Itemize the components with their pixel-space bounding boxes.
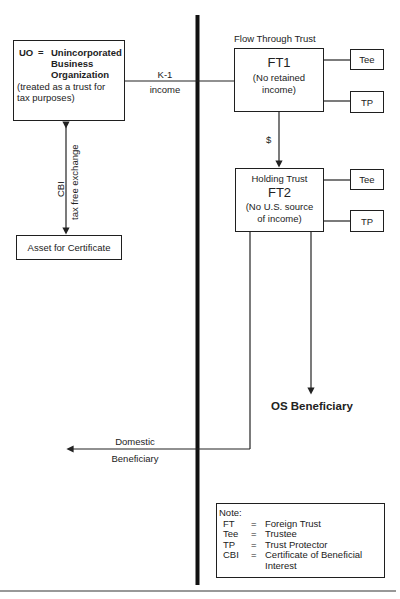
uo-line2: Business: [51, 58, 93, 69]
ft1-sub1: (No retained: [235, 72, 323, 83]
ft2-caption: Holding Trust: [236, 173, 323, 184]
cbi-label: CBI: [55, 181, 66, 197]
k1-label: K-1: [150, 69, 180, 80]
note-legend-box: Note: FT = Foreign Trust Tee = Trustee T…: [216, 503, 385, 578]
ft1-sub2: income): [235, 84, 323, 95]
note-abbr: Tee: [217, 529, 251, 540]
note-eq: =: [251, 550, 265, 571]
ft1-caption: Flow Through Trust: [234, 33, 316, 44]
beneficiary-label: Beneficiary: [100, 453, 170, 464]
uo-line1: Unincorporated: [51, 47, 122, 58]
tax-free-exchange-label: tax free exchange: [69, 144, 80, 220]
k1-income-label: income: [142, 84, 188, 95]
ft1-tee-label: Tee: [351, 54, 383, 65]
ft2-protector-box: TP: [350, 210, 384, 232]
ft1-protector-box: TP: [350, 91, 384, 113]
asset-for-certificate-box: Asset for Certificate: [16, 235, 122, 260]
uo-sub2: tax purposes): [17, 92, 75, 103]
os-beneficiary-label: OS Beneficiary: [271, 400, 353, 413]
ft2-tee-label: Tee: [351, 174, 383, 185]
note-item-tee: Tee = Trustee: [217, 529, 384, 540]
uo-equals: =: [38, 47, 44, 58]
note-item-cbi: CBI = Certificate of Beneficial Interest: [217, 550, 384, 571]
note-title: Note:: [217, 508, 384, 519]
note-eq: =: [251, 529, 265, 540]
note-def: Certificate of Beneficial Interest: [265, 550, 375, 571]
ft1-tp-label: TP: [351, 97, 383, 108]
ft1-box: FT1 (No retained income): [234, 48, 324, 112]
note-def: Trustee: [265, 529, 375, 540]
ft2-sub1: (No U.S. source: [236, 201, 323, 212]
ft2-title: FT2: [236, 186, 323, 200]
ft2-sub2: of income): [236, 213, 323, 224]
uo-abbr: UO: [19, 47, 33, 58]
domestic-label: Domestic: [100, 436, 170, 447]
dollar-label: $: [266, 134, 271, 145]
ft2-trustee-box: Tee: [350, 169, 384, 190]
ft2-tp-label: TP: [351, 216, 383, 227]
asset-label: Asset for Certificate: [17, 242, 121, 253]
note-abbr: CBI: [217, 550, 251, 571]
uo-box: UO = Unincorporated Business Organizatio…: [13, 40, 125, 121]
ft1-trustee-box: Tee: [350, 49, 384, 70]
ft2-box: Holding Trust FT2 (No U.S. source of inc…: [235, 168, 324, 232]
uo-sub1: (treated as a trust for: [17, 81, 105, 92]
ft1-title: FT1: [235, 56, 323, 70]
uo-line3: Organization: [51, 69, 109, 80]
note-item-ft: FT = Foreign Trust: [217, 519, 384, 530]
